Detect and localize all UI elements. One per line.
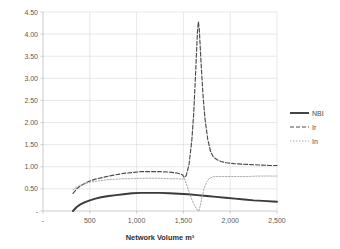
- x-tick-label: 500: [84, 217, 96, 224]
- chart-legend: NBIIrIn: [290, 110, 324, 145]
- y-tick-label: 1.50: [24, 141, 38, 148]
- y-tick-label: 2.00: [24, 119, 38, 126]
- y-tick-label: 2.50: [24, 97, 38, 104]
- x-tick-label: -: [42, 217, 45, 224]
- y-tick-label: 0.50: [24, 185, 38, 192]
- y-tick-label: 4.00: [24, 31, 38, 38]
- x-axis-title: Network Volume m³: [126, 233, 195, 242]
- x-tick-label: 1,500: [175, 217, 193, 224]
- y-tick-label: 4.50: [24, 9, 38, 16]
- y-tick-label: 1.00: [24, 163, 38, 170]
- plot-background: [43, 12, 277, 211]
- y-axis-ticks: -0.501.001.502.002.503.003.504.004.50: [24, 9, 43, 215]
- x-tick-label: 1,000: [128, 217, 146, 224]
- x-axis-ticks: -5001,0001,5002,0002,500: [42, 211, 286, 224]
- line-chart: -0.501.001.502.002.503.003.504.004.50 -5…: [0, 0, 340, 249]
- x-tick-label: 2,500: [268, 217, 286, 224]
- legend-label-ir: Ir: [312, 124, 317, 131]
- x-tick-label: 2,000: [221, 217, 239, 224]
- legend-label-in: In: [312, 138, 318, 145]
- chart-container: -0.501.001.502.002.503.003.504.004.50 -5…: [0, 0, 340, 249]
- y-tick-label: 3.00: [24, 75, 38, 82]
- legend-label-nbi: NBI: [312, 110, 324, 117]
- y-tick-label: 3.50: [24, 53, 38, 60]
- y-tick-label: -: [36, 208, 39, 215]
